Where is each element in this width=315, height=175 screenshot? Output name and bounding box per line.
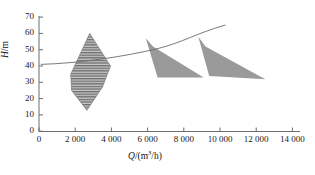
y-axis-symbol: H [0, 51, 10, 58]
operating-zone-1-polygon [71, 33, 111, 110]
x-axis-symbol: Q [128, 151, 135, 161]
x-tick-label: 6 000 [132, 135, 164, 144]
y-tick-label: 0 [14, 126, 34, 135]
x-axis-unit-pre: /(m [135, 151, 148, 161]
x-tick-label: 12 000 [238, 135, 275, 144]
system-resistance-curve [41, 25, 226, 64]
y-tick-label: 70 [14, 12, 34, 21]
y-tick-label: 50 [14, 45, 34, 54]
chart-container: 70 60 50 40 30 20 10 0 0 2 000 4 000 6 0… [0, 0, 315, 175]
y-axis-unit: /m [0, 41, 10, 51]
x-tick-label: 0 [29, 135, 49, 144]
chart-plot-area [0, 0, 315, 175]
y-tick-label: 40 [14, 61, 34, 70]
y-tick-label: 60 [14, 28, 34, 37]
x-tick-label: 8 000 [168, 135, 200, 144]
operating-zone-3-polygon [198, 37, 265, 79]
x-tick-label: 2 000 [59, 135, 91, 144]
x-axis-unit-post: /h) [151, 151, 162, 161]
x-axis [39, 128, 300, 132]
x-tick-label: 14 000 [274, 135, 311, 144]
y-tick-label: 10 [14, 110, 34, 119]
y-tick-label: 30 [14, 77, 34, 86]
x-axis-title: Q/(m3/h) [128, 150, 162, 162]
y-axis [39, 16, 43, 132]
y-tick-label: 20 [14, 94, 34, 103]
x-tick-label: 10 000 [202, 135, 239, 144]
x-tick-label: 4 000 [95, 135, 127, 144]
y-axis-title: H/m [1, 41, 11, 58]
operating-zone-2-polygon [146, 38, 204, 77]
